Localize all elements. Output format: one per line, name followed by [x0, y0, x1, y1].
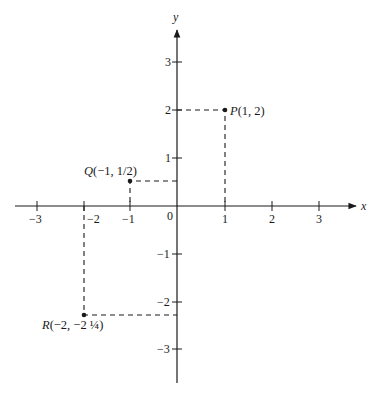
coordinate-plane: x y −3 −2 −1 0 1 2 3 3 2 1 −1 −2 −3 P(1,…	[0, 0, 378, 401]
point-p	[223, 108, 228, 113]
point-r-label: R(−2, −2 ¼)	[41, 318, 103, 332]
x-tick-label: 3	[316, 212, 322, 226]
point-q	[128, 179, 133, 184]
point-p-label: P(1, 2)	[229, 104, 265, 118]
guide-lines	[84, 110, 225, 315]
y-tick-label: 3	[165, 55, 171, 69]
x-axis-label: x	[360, 199, 367, 213]
x-tick-label: −1	[122, 212, 135, 226]
x-tick-label: 2	[269, 212, 275, 226]
y-tick-label: −2	[157, 295, 170, 309]
x-tick-label: −3	[29, 212, 42, 226]
point-r	[82, 313, 87, 318]
y-tick-label: −3	[157, 342, 170, 356]
point-q-label: Q(−1, 1/2)	[84, 164, 137, 178]
origin-label: 0	[167, 209, 173, 223]
y-tick-label: −1	[157, 247, 170, 261]
y-axis-label: y	[172, 10, 179, 24]
y-tick-label: 2	[165, 103, 171, 117]
x-tick-label: 1	[222, 212, 228, 226]
x-tick-label: −2	[87, 212, 100, 226]
y-tick-label: 1	[165, 151, 171, 165]
